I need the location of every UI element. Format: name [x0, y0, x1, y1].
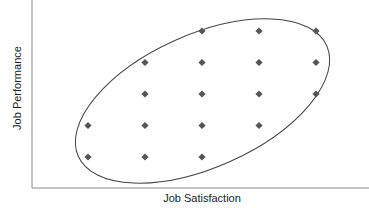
data-point-diamond: [255, 27, 262, 34]
data-point-diamond: [198, 122, 205, 129]
data-point-diamond: [312, 59, 319, 66]
data-point-diamond: [198, 27, 205, 34]
data-point-diamond: [141, 153, 148, 160]
data-point-diamond: [198, 90, 205, 97]
data-point-diamond: [141, 90, 148, 97]
data-point-diamond: [255, 59, 262, 66]
data-point-diamond: [255, 90, 262, 97]
data-point-diamond: [141, 122, 148, 129]
data-point-diamond: [312, 90, 319, 97]
data-point-diamond: [198, 153, 205, 160]
data-point-diamond: [198, 59, 205, 66]
data-point-diamond: [84, 122, 91, 129]
scatter-chart: Job Satisfaction Job Performance: [0, 0, 369, 212]
data-point-diamond: [84, 153, 91, 160]
data-point-diamond: [312, 27, 319, 34]
data-point-diamond: [141, 59, 148, 66]
data-points: [84, 27, 319, 160]
plot-area: [32, 0, 369, 212]
y-axis-label: Job Performance: [11, 46, 23, 130]
x-axis-label: Job Satisfaction: [163, 192, 241, 204]
data-point-diamond: [255, 122, 262, 129]
